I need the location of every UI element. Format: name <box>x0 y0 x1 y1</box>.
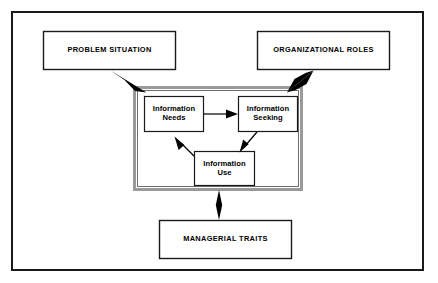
information-seeking-box[interactable] <box>239 97 298 132</box>
managerial-traits-box[interactable] <box>160 221 292 259</box>
diagram-canvas: PROBLEM SITUATION ORGANIZATIONAL ROLES I… <box>0 0 438 283</box>
problem-situation-box[interactable] <box>44 32 176 70</box>
organizational-roles-box[interactable] <box>258 32 390 70</box>
information-use-box[interactable] <box>195 152 255 186</box>
diagram-vector-layer <box>0 0 438 283</box>
information-needs-box[interactable] <box>145 97 204 132</box>
